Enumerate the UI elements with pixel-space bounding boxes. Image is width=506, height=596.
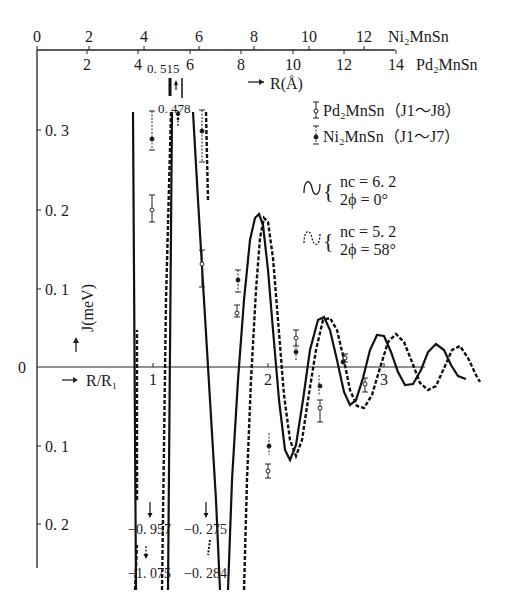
x-tick: 3 [380,371,388,388]
pd2mnsn-data-points [149,195,368,478]
y-tick: 0. 1 [45,281,69,298]
legend-pd-label: Pd₂MnSn（J1～J8） [323,102,461,119]
pd-tick: 2 [83,56,91,73]
pd-point-j4 [265,464,271,478]
legend: Pd₂MnSn（J1～J8） Ni₂MnSn（J1～J7） { nc = 6. … [304,102,461,259]
annotation-0478: 0. 478 [158,101,191,116]
legend-ni-marker [313,126,319,144]
legend-dashed-nc: nc = 5. 2 [340,223,396,240]
annotation-0284: −0. 284 [184,566,227,581]
pd-point-j1 [149,195,155,222]
ni-point-j6 [318,375,322,395]
legend-solid-wave-icon [304,182,320,195]
solid-curve [133,112,466,590]
legend-brace-icon: { [323,178,334,203]
r-axis-label: R(Å) [248,75,303,93]
annotation-0515: 0. 515 [147,61,180,76]
ni-point-j4 [267,433,271,455]
svg-text:R(Å): R(Å) [270,75,303,93]
ni-point-j2 [199,110,205,162]
ni-tick: 8 [250,28,258,45]
ni2mnsn-axis-label: Ni₂MnSn [388,28,449,45]
ni-tick: 4 [140,28,148,45]
pd-tick: 4 [134,56,142,73]
pd-tick: 6 [186,56,194,73]
y-tick-zero: 0 [18,359,26,376]
ni-point-j1 [149,111,155,150]
legend-dashed-phi: 2ϕ = 58° [340,241,396,259]
x-tick: 2 [264,371,272,388]
annotation-0275: −0. 275 [184,522,227,537]
ni-point-j3 [235,270,241,292]
x-tick: 1 [149,371,157,388]
pd-tick: 10 [285,56,301,73]
ni-tick: 0 [33,28,41,45]
y-axis: 0. 3 0. 2 0. 1 0. 1 0. 2 0 J(meV) [18,50,97,568]
legend-pd-marker [313,102,319,118]
y-axis-label: J(meV) [79,284,97,332]
rkky-exchange-chart: 0 2 4 6 8 10 12 Ni₂MnSn 2 4 6 8 10 12 14… [0,0,506,596]
ni-tick: 10 [301,28,317,45]
pd-point-j5 [293,330,299,346]
ni-tick: 6 [195,28,203,45]
y-tick: 0. 1 [45,438,69,455]
x-axis-label: R/R₁ [86,372,117,389]
legend-brace-icon: { [323,228,334,253]
trough-annotations: −0. 957 −1. 075 −0. 275 −0. 284 [128,502,227,581]
legend-solid-phi: 2ϕ = 0° [340,191,388,209]
legend-ni-label: Ni₂MnSn（J1～J7） [323,128,460,145]
pd-tick: 8 [237,56,245,73]
y-tick: 0. 2 [45,516,69,533]
pd-point-j2 [199,250,205,287]
y-tick: 0. 3 [45,122,69,139]
ni-tick: 12 [356,28,372,45]
pd-tick: 14 [388,56,404,73]
top-axis-ni2mnsn: 0 2 4 6 8 10 12 Ni₂MnSn [33,28,449,50]
peak-annotations: 0. 515 0. 478 [147,61,191,126]
ni2mnsn-data-points [149,110,345,455]
annotation-0957: −0. 957 [128,522,171,537]
pd-tick: 12 [336,56,352,73]
pd-point-j3 [234,305,240,317]
ni-tick: 2 [85,28,93,45]
legend-dashed-wave-icon [304,232,320,245]
annotation-1075: −1. 075 [128,566,171,581]
pd2mnsn-axis-label: Pd₂MnSn [416,56,478,73]
y-tick: 0. 2 [45,202,69,219]
top-axis-pd2mnsn: 2 4 6 8 10 12 14 Pd₂MnSn [83,50,478,73]
legend-solid-nc: nc = 6. 2 [340,173,396,190]
pd-point-j6 [317,400,323,422]
